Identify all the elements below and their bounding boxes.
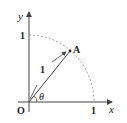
unit-circle-diagram: y x O 1 1 A 1 θ: [0, 0, 127, 123]
point-A: [69, 50, 72, 53]
y-tick-label: 1: [20, 30, 25, 41]
segment-length-label: 1: [40, 64, 45, 75]
angle-arc: [34, 96, 37, 102]
point-A-label: A: [73, 44, 81, 55]
angle-label: θ: [39, 91, 44, 102]
x-tick-label: 1: [91, 105, 96, 116]
origin-label: O: [17, 105, 25, 116]
segment-OA: [29, 51, 70, 102]
vector-arrow: [52, 52, 66, 62]
x-axis-label: x: [108, 103, 114, 115]
y-axis-label: y: [17, 10, 23, 22]
